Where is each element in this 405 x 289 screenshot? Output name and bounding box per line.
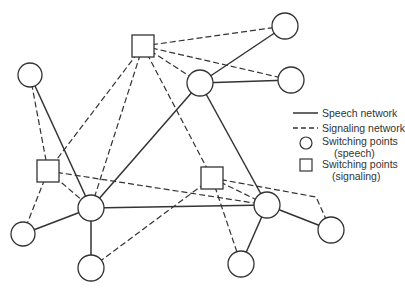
signaling-link [91, 46, 143, 208]
signaling-switching-point [132, 35, 154, 57]
signaling-link [143, 26, 285, 46]
speech-link [91, 205, 267, 208]
signaling-switching-point [201, 167, 223, 189]
network-diagram: Speech network Signaling network Switchi… [0, 0, 405, 289]
speech-switching-point [318, 217, 344, 243]
speech-switching-point [228, 251, 254, 277]
signaling-link [48, 46, 143, 171]
edges-layer [23, 26, 331, 268]
speech-link [30, 75, 91, 208]
signaling-switch-legend-icon [300, 159, 312, 171]
speech-switching-point [78, 195, 104, 221]
signaling-link [30, 75, 48, 171]
signaling-link [91, 178, 212, 268]
speech-switching-point [18, 63, 42, 87]
speech-switch-legend-icon [300, 137, 312, 149]
legend-signaling-network: Signaling network [322, 122, 405, 134]
legend-switching-signaling-1: Switching points [322, 158, 398, 170]
speech-link [91, 83, 200, 208]
signaling-switching-point [37, 160, 59, 182]
legend-switching-signaling-2: (signaling) [332, 170, 380, 182]
speech-link [200, 26, 285, 83]
speech-link [200, 80, 291, 83]
signaling-link [143, 46, 291, 80]
nodes-layer [11, 13, 344, 281]
speech-switching-point [187, 70, 213, 96]
speech-switching-point [11, 222, 35, 246]
legend-switching-speech-1: Switching points [322, 135, 398, 147]
legend-speech-network: Speech network [322, 107, 398, 119]
speech-switching-point [272, 13, 298, 39]
speech-switching-point [254, 192, 280, 218]
speech-switching-point [78, 255, 104, 281]
speech-switching-point [278, 67, 304, 93]
signaling-link [143, 46, 212, 178]
legend: Speech network Signaling network Switchi… [293, 107, 405, 182]
